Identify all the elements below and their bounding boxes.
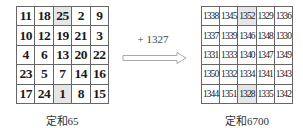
grid-cell: 16	[90, 65, 108, 84]
grid-cell: 23	[17, 65, 35, 84]
left-magic-square: 1118252910121921346132022235714161724181…	[16, 6, 109, 104]
right-magic-square: 1338134513521329133613371339134613481330…	[201, 6, 293, 104]
left-caption: 定和65	[12, 112, 112, 128]
grid-cell: 21	[72, 26, 90, 45]
grid-cell: 19	[53, 26, 71, 45]
grid-row: 101219213	[17, 26, 109, 45]
grid-cell: 25	[53, 7, 71, 26]
grid-cell: 1347	[256, 45, 274, 64]
grid-cell: 1342	[274, 84, 292, 103]
grid-cell: 3	[90, 26, 108, 45]
grid-cell: 14	[72, 65, 90, 84]
grid-row: 13501332133413411343	[202, 65, 293, 84]
grid-cell: 1344	[202, 84, 220, 103]
grid-cell: 1338	[202, 7, 220, 26]
grid-cell: 1335	[256, 84, 274, 103]
grid-cell: 1334	[238, 65, 256, 84]
grid-cell: 1336	[274, 7, 292, 26]
grid-row: 23571416	[17, 65, 109, 84]
grid-cell: 1331	[202, 45, 220, 64]
grid-cell: 1340	[238, 45, 256, 64]
right-caption: 定和6700	[197, 112, 297, 128]
grid-cell: 1333	[220, 45, 238, 64]
grid-cell: 20	[72, 45, 90, 64]
grid-row: 13381345135213291336	[202, 7, 293, 26]
grid-cell: 1351	[220, 84, 238, 103]
grid-row: 13441351132813351342	[202, 84, 293, 103]
grid-cell: 1332	[220, 65, 238, 84]
grid-cell: 15	[90, 84, 108, 103]
grid-cell: 18	[35, 7, 53, 26]
grid-cell: 1	[53, 84, 71, 103]
grid-cell: 4	[17, 45, 35, 64]
grid-cell: 1348	[256, 26, 274, 45]
grid-cell: 1345	[220, 7, 238, 26]
grid-cell: 1343	[274, 65, 292, 84]
grid-cell: 8	[72, 84, 90, 103]
grid-cell: 1329	[256, 7, 274, 26]
grid-cell: 22	[90, 45, 108, 64]
grid-cell: 1339	[220, 26, 238, 45]
grid-cell: 24	[35, 84, 53, 103]
grid-cell: 10	[17, 26, 35, 45]
grid-cell: 1346	[238, 26, 256, 45]
grid-row: 17241815	[17, 84, 109, 103]
grid-row: 11182529	[17, 7, 109, 26]
grid-cell: 1352	[238, 7, 256, 26]
grid-row: 46132022	[17, 45, 109, 64]
grid-cell: 1337	[202, 26, 220, 45]
grid-cell: 7	[53, 65, 71, 84]
grid-cell: 13	[53, 45, 71, 64]
grid-row: 13371339134613481330	[202, 26, 293, 45]
grid-cell: 12	[35, 26, 53, 45]
operation-label: + 1327	[130, 33, 176, 45]
grid-cell: 2	[72, 7, 90, 26]
grid-cell: 1328	[238, 84, 256, 103]
grid-cell: 1341	[256, 65, 274, 84]
grid-cell: 1330	[274, 26, 292, 45]
hollow-right-arrow-icon	[122, 51, 188, 65]
grid-row: 13311333134013471349	[202, 45, 293, 64]
grid-cell: 9	[90, 7, 108, 26]
grid-cell: 1349	[274, 45, 292, 64]
grid-cell: 5	[35, 65, 53, 84]
grid-cell: 6	[35, 45, 53, 64]
grid-cell: 1350	[202, 65, 220, 84]
grid-cell: 11	[17, 7, 35, 26]
grid-cell: 17	[17, 84, 35, 103]
